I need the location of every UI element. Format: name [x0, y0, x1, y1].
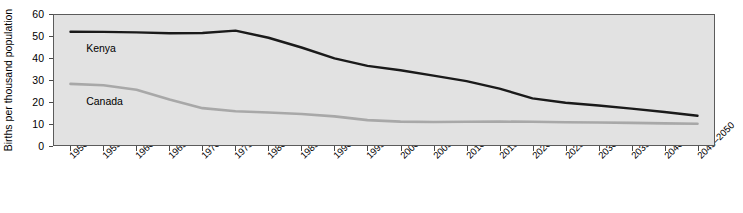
- series-canvas: [54, 15, 714, 145]
- y-axis-title: Births per thousand population: [0, 14, 16, 146]
- plot-area: KenyaCanada: [53, 14, 715, 146]
- y-axis-title-label: Births per thousand population: [2, 9, 14, 151]
- y-tick-label: 20: [22, 97, 44, 107]
- y-tick-label: 10: [22, 119, 44, 129]
- y-tick-label: 60: [22, 9, 44, 19]
- y-tick-label: 40: [22, 53, 44, 63]
- series-line-kenya: [71, 31, 698, 116]
- series-line-canada: [71, 84, 698, 124]
- y-tick-mark: [49, 146, 53, 147]
- chart-figure: Births per thousand population 010203040…: [0, 0, 743, 213]
- series-label-kenya: Kenya: [86, 42, 116, 54]
- y-tick-label: 50: [22, 31, 44, 41]
- y-tick-label: 30: [22, 75, 44, 85]
- y-tick-label: 0: [22, 141, 44, 151]
- series-label-canada: Canada: [86, 95, 123, 107]
